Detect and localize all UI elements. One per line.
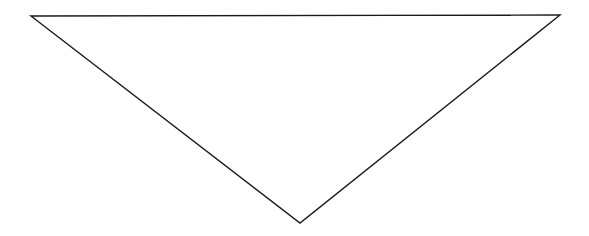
inverted-triangle-shape [31, 15, 560, 223]
diagram-canvas [0, 0, 589, 236]
triangle-diagram [0, 0, 589, 236]
